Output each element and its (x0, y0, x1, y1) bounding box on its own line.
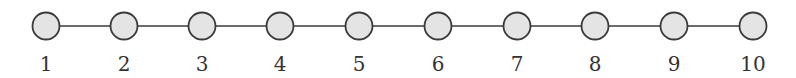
node-label-7: 7 (511, 52, 524, 76)
node-label-5: 5 (353, 52, 366, 76)
node-label-10: 10 (740, 52, 765, 76)
node-3 (189, 13, 216, 40)
node-label-4: 4 (274, 52, 287, 76)
node-labels: 12345678910 (40, 52, 766, 76)
node-label-8: 8 (589, 52, 602, 76)
node-5 (346, 13, 373, 40)
node-label-3: 3 (196, 52, 209, 76)
node-label-2: 2 (118, 52, 131, 76)
node-label-9: 9 (668, 52, 681, 76)
path-graph-diagram: 12345678910 (0, 0, 796, 78)
node-6 (425, 13, 452, 40)
node-7 (504, 13, 531, 40)
node-10 (740, 13, 767, 40)
node-1 (33, 13, 60, 40)
node-9 (661, 13, 688, 40)
node-2 (111, 13, 138, 40)
node-4 (267, 13, 294, 40)
node-8 (582, 13, 609, 40)
node-label-1: 1 (40, 52, 53, 76)
node-label-6: 6 (432, 52, 445, 76)
